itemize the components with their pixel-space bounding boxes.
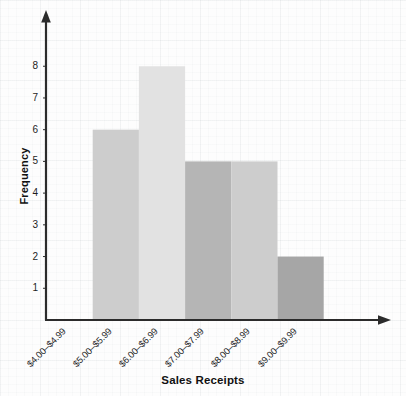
y-tick-label: 3 (22, 220, 38, 230)
y-tick-label: 1 (22, 283, 38, 293)
y-axis-arrow-icon (41, 10, 51, 23)
y-tick-label: 7 (22, 93, 38, 103)
x-axis-arrow-icon (378, 315, 391, 325)
histogram-bar (231, 161, 277, 320)
y-axis-title: Frequency (18, 131, 30, 221)
x-axis-title: Sales Receipts (0, 374, 406, 386)
histogram-bar (278, 257, 324, 320)
histogram-bar (139, 66, 185, 320)
bars-group (93, 66, 324, 320)
histogram-figure: 12345678 $4.00–$4.99$5.00–$5.99$6.00–$6.… (0, 0, 406, 396)
y-tick-label: 2 (22, 252, 38, 262)
histogram-bar (93, 130, 139, 320)
histogram-bar (185, 161, 231, 320)
y-tick-label: 8 (22, 61, 38, 71)
